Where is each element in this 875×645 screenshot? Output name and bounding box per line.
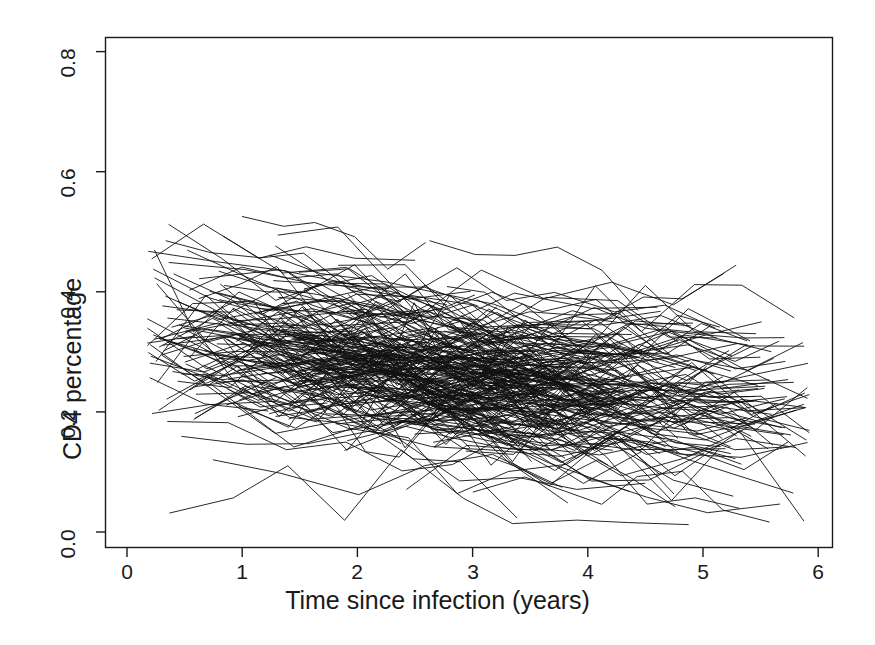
ytick-label-0.6: 0.6 bbox=[56, 161, 80, 205]
cd4-spaghetti-plot bbox=[0, 0, 875, 645]
x-axis-title: Time since infection (years) bbox=[0, 586, 875, 615]
ytick-label-0.0: 0.0 bbox=[56, 522, 80, 566]
xtick-label-5: 5 bbox=[683, 560, 723, 584]
xtick-label-6: 6 bbox=[798, 560, 838, 584]
xtick-label-1: 1 bbox=[222, 560, 262, 584]
plot-background bbox=[0, 0, 875, 645]
figure-canvas: 0.8 0.6 0.4 0.2 0.0 0 1 2 3 4 5 6 Time s… bbox=[0, 0, 875, 645]
ytick-label-0.8: 0.8 bbox=[56, 41, 80, 85]
xtick-label-4: 4 bbox=[568, 560, 608, 584]
y-axis-title: CD4 percentage bbox=[58, 278, 87, 460]
xtick-label-3: 3 bbox=[453, 560, 493, 584]
xtick-label-0: 0 bbox=[107, 560, 147, 584]
xtick-label-2: 2 bbox=[337, 560, 377, 584]
